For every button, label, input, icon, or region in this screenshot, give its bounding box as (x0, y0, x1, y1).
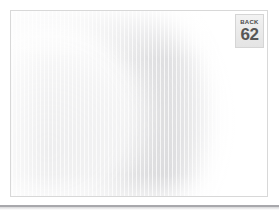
scan-arc-overlay (10, 10, 205, 197)
scan-haze-overlay (10, 21, 191, 197)
page-root: BACK 62 (0, 0, 279, 215)
scan-stripes-overlay (11, 11, 267, 196)
bottom-separator-shadow (0, 207, 279, 210)
page-badge-number: 62 (241, 26, 259, 43)
scanned-page-card[interactable]: BACK 62 (10, 10, 268, 197)
page-number-badge[interactable]: BACK 62 (235, 14, 264, 48)
scan-arc-secondary-overlay (10, 10, 203, 197)
scan-vignette-overlay (11, 11, 267, 196)
